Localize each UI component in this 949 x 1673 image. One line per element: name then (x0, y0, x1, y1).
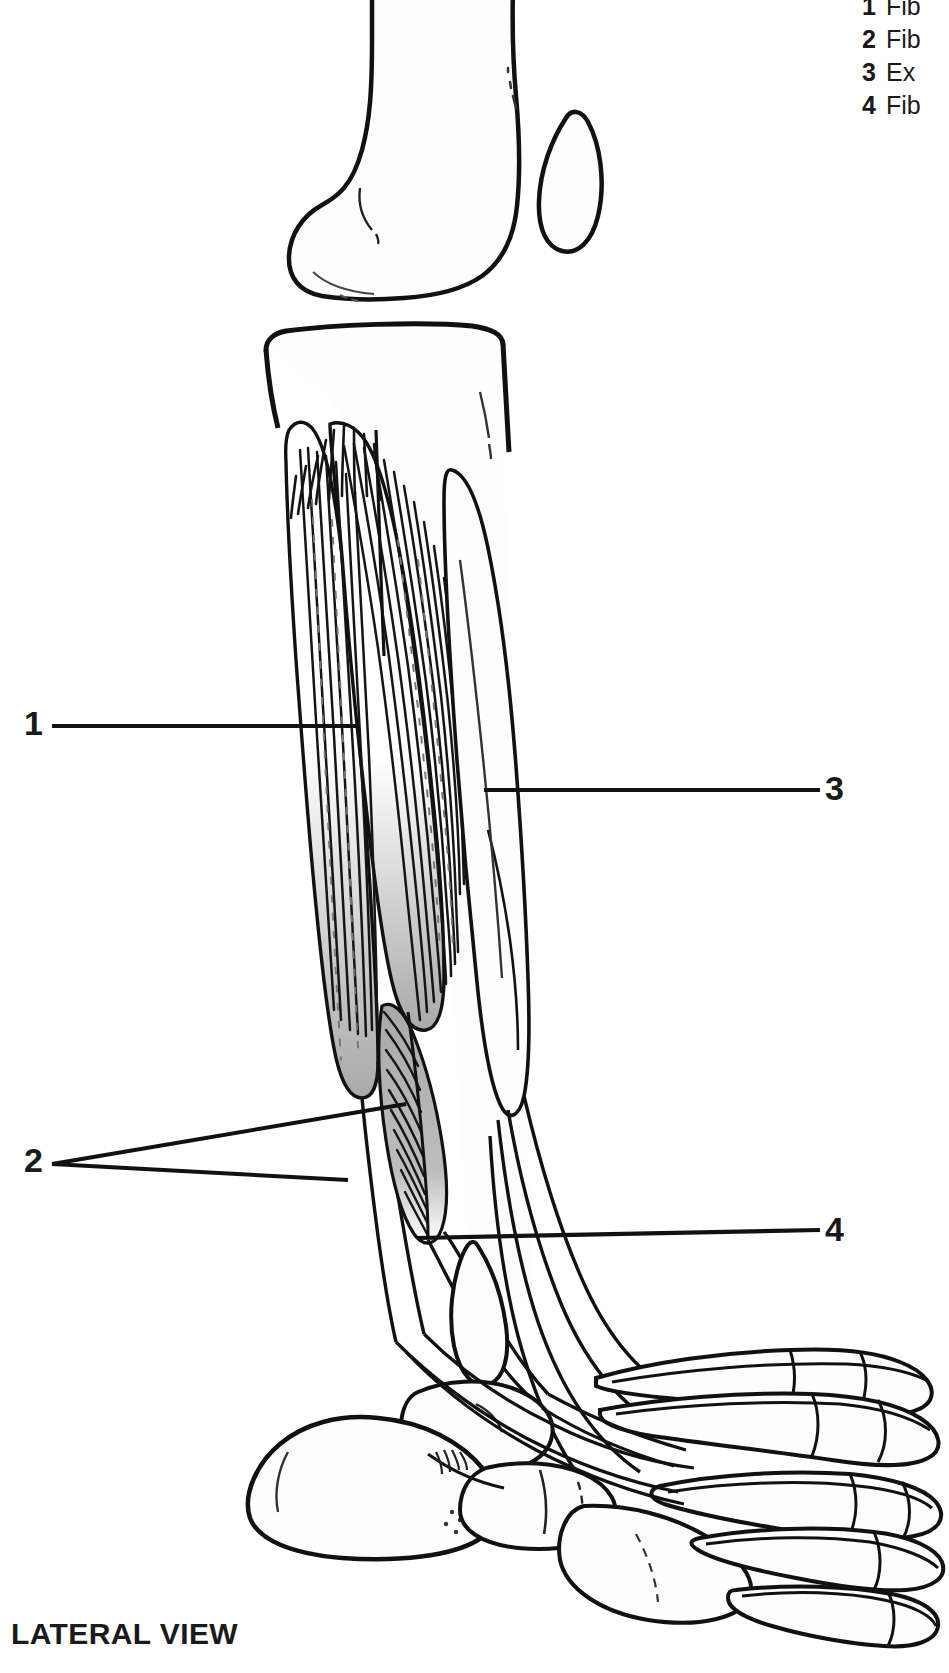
patella-bone (539, 112, 602, 252)
legend-item-2: 2 Fib (862, 25, 949, 58)
view-label: LATERAL VIEW (11, 1617, 238, 1651)
femur-bone (289, 0, 519, 301)
leader-line-2-lower (52, 1164, 348, 1180)
legend-label-2: Fib (886, 25, 921, 54)
legend-number-4: 4 (862, 91, 886, 120)
legend-number-1: 1 (862, 0, 886, 21)
legend: 1 Fib 2 Fib 3 Ex 4 Fib (862, 0, 949, 124)
legend-label-4: Fib (886, 91, 921, 120)
legend-number-2: 2 (862, 25, 886, 54)
legend-label-3: Ex (886, 58, 915, 87)
callout-number-2: 2 (24, 1143, 43, 1177)
lateral-leg-anatomy-illustration (0, 0, 949, 1673)
legend-item-1: 1 Fib (862, 0, 949, 25)
callout-number-1: 1 (24, 706, 43, 740)
fibularis-brevis-muscle (379, 1004, 447, 1243)
callout-number-3: 3 (825, 771, 844, 805)
callout-number-4: 4 (825, 1212, 844, 1246)
leader-line-2-upper (52, 1104, 406, 1164)
foot-skeleton (248, 1242, 943, 1646)
legend-item-4: 4 Fib (862, 91, 949, 124)
legend-label-1: Fib (886, 0, 921, 21)
legend-item-3: 3 Ex (862, 58, 949, 91)
legend-number-3: 3 (862, 58, 886, 87)
